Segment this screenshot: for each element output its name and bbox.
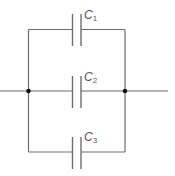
capacitor-c2	[73, 76, 82, 108]
label-c2: C2	[84, 71, 97, 85]
right-junction-node	[123, 89, 128, 94]
capacitor-c1	[73, 14, 82, 46]
capacitor-c3	[73, 137, 82, 169]
label-c3: C3	[84, 131, 97, 145]
circuit-diagram	[0, 0, 175, 176]
left-junction-node	[26, 89, 31, 94]
label-c1: C1	[84, 9, 97, 23]
